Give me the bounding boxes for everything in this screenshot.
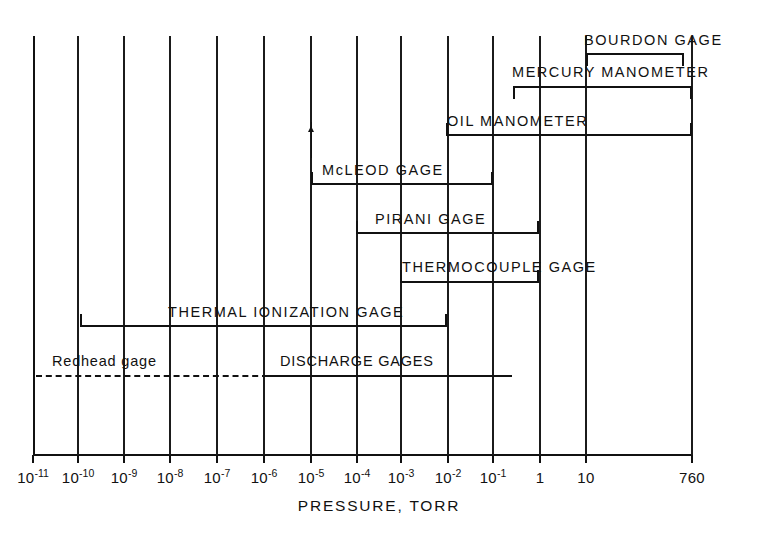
x-tick-10-1 [492, 455, 493, 463]
x-tick-10-2 [447, 455, 448, 463]
range-bar-discharge-gages-dashed [36, 375, 268, 377]
x-tick-10-7 [216, 455, 217, 463]
range-bar-thermocouple-gage [400, 281, 539, 283]
range-bar-bourdon-gage [586, 53, 684, 55]
x-axis-title: PRESSURE, TORR [0, 497, 758, 515]
gridline-10-10 [77, 36, 78, 463]
x-tick-10-11 [32, 455, 33, 463]
y-axis-line [33, 36, 35, 455]
gridline-10-4 [356, 36, 357, 463]
x-tick-label-10-10: 10-10 [62, 470, 94, 485]
pressure-gage-range-chart: 10-1110-1010-910-810-710-610-510-410-310… [0, 0, 758, 541]
range-label-discharge-gages: DISCHARGE GAGES [280, 354, 434, 369]
range-cap-mcleod-gage-left [311, 172, 313, 185]
x-tick-10-4 [356, 455, 357, 463]
range-label-mercury-manometer: MERCURY MANOMETER [512, 65, 709, 80]
x-tick-10 [585, 455, 586, 463]
x-tick-label-10-6: 10-6 [251, 470, 278, 485]
x-tick-label-10-8: 10-8 [157, 470, 184, 485]
range-cap-mcleod-gage-right [491, 172, 493, 185]
x-tick-label-10-4: 10-4 [344, 470, 371, 485]
x-tick-label-760: 760 [679, 470, 705, 485]
x-tick-label-10-2: 10-2 [435, 470, 462, 485]
x-tick-10-6 [263, 455, 264, 463]
gridline-10-2 [447, 36, 448, 463]
gridline-10-6 [263, 36, 264, 463]
range-cap-pirani-gage-left [356, 221, 358, 234]
range-cap-oil-manometer-right [690, 123, 692, 136]
x-tick-label-10-3: 10-3 [388, 470, 415, 485]
range-cap-mercury-manometer-left [513, 86, 515, 99]
x-tick-label-10: 10 [577, 470, 594, 485]
range-bar-thermal-ionization-gage [80, 325, 447, 327]
range-label-oil-manometer: OIL MANOMETER [447, 114, 588, 129]
range-cap-thermal-ionization-gage-left [80, 314, 82, 327]
range-bar-discharge-gages-solid [268, 375, 512, 377]
range-label-redhead-gage: Redhead gage [52, 354, 157, 369]
x-axis-line [33, 454, 693, 456]
range-bar-mercury-manometer [513, 86, 692, 88]
x-tick-10-5 [310, 455, 311, 463]
range-cap-mercury-manometer-right [690, 86, 692, 99]
gridline-10 [585, 36, 586, 463]
range-label-mcleod-gage: McLEOD GAGE [322, 163, 444, 178]
x-tick-label-10-9: 10-9 [111, 470, 138, 485]
gridline-10-9 [123, 36, 124, 463]
gridline-10-7 [216, 36, 217, 463]
x-tick-label-10-7: 10-7 [204, 470, 231, 485]
x-tick-label-1: 1 [536, 470, 545, 485]
x-tick-10-10 [77, 455, 78, 463]
range-cap-thermal-ionization-gage-right [445, 314, 447, 327]
x-tick-10-9 [123, 455, 124, 463]
gridline-760 [691, 36, 692, 463]
range-label-bourdon-gage: BOURDON GAGE [584, 33, 723, 48]
range-label-thermal-ionization-gage: THERMAL IONIZATION GAGE [168, 305, 404, 320]
x-tick-1 [539, 455, 540, 463]
x-tick-label-10-11: 10-11 [17, 470, 49, 485]
x-tick-label-10-5: 10-5 [298, 470, 325, 485]
range-label-pirani-gage: PIRANI GAGE [375, 212, 486, 227]
range-cap-pirani-gage-right [537, 221, 539, 234]
gridline-10-8 [169, 36, 170, 463]
x-tick-10-3 [400, 455, 401, 463]
gridline-1 [539, 36, 540, 463]
range-label-thermocouple-gage: THERMOCOUPLE GAGE [402, 260, 597, 275]
x-tick-760 [691, 455, 692, 463]
gridline-10-5 [310, 36, 311, 463]
range-bar-mcleod-gage [311, 183, 493, 185]
gridline-10-1 [492, 36, 493, 463]
x-tick-label-10-1: 10-1 [480, 470, 507, 485]
x-tick-10-8 [169, 455, 170, 463]
gridline-10-3 [400, 36, 401, 463]
mcleod-arrow-head [308, 126, 314, 132]
range-bar-oil-manometer [446, 134, 692, 136]
range-bar-pirani-gage [356, 232, 539, 234]
